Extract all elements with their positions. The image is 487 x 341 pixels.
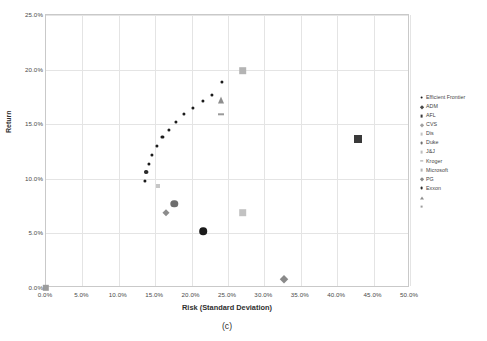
- data-point: [175, 120, 178, 123]
- legend-marker-icon: [417, 93, 426, 102]
- legend-item[interactable]: J&J: [417, 148, 485, 157]
- x-axis-tick-label: 35.0%: [291, 291, 309, 298]
- legend-marker-icon: [417, 139, 426, 148]
- data-point: [156, 184, 160, 188]
- chart-legend: Efficient FrontierADMAFLCVSDisDukeJ&JKro…: [417, 93, 485, 211]
- data-point: [151, 153, 154, 156]
- legend-label: CVS: [426, 122, 437, 127]
- legend-marker-icon: [417, 129, 426, 138]
- data-point: [239, 67, 247, 75]
- legend-item[interactable]: ADM: [417, 102, 485, 111]
- legend-marker-icon: [417, 193, 426, 202]
- y-axis-tick-label: 20.0%: [25, 65, 43, 72]
- grid-line-vertical: [155, 15, 156, 286]
- legend-item[interactable]: [417, 193, 485, 202]
- grid-line-vertical: [82, 15, 83, 286]
- grid-line-horizontal: [46, 70, 408, 71]
- legend-marker-icon: [417, 175, 426, 184]
- data-point: [147, 162, 150, 165]
- legend-item[interactable]: Efficient Frontier: [417, 93, 485, 102]
- legend-item[interactable]: Kroger: [417, 157, 485, 166]
- x-axis-tick-label: 20.0%: [182, 291, 200, 298]
- legend-item[interactable]: Microsoft: [417, 166, 485, 175]
- legend-label: Duke: [426, 140, 439, 145]
- x-axis-tick-label: 0.0%: [38, 291, 53, 298]
- x-axis-tick-label: 30.0%: [254, 291, 272, 298]
- grid-line-vertical: [301, 15, 302, 286]
- x-axis-title: Risk (Standard Deviation): [45, 303, 409, 312]
- data-point: [183, 113, 186, 116]
- x-axis-tick-label: 5.0%: [74, 291, 89, 298]
- x-axis-tick-label: 15.0%: [145, 291, 163, 298]
- x-axis-tick-label: 40.0%: [327, 291, 345, 298]
- legend-item[interactable]: CVS: [417, 120, 485, 129]
- data-point: [239, 209, 247, 217]
- legend-marker-icon: [417, 202, 426, 211]
- legend-item[interactable]: PG: [417, 175, 485, 184]
- legend-marker-icon: [417, 102, 426, 111]
- data-point: [161, 136, 164, 139]
- y-axis-tick-label: 25.0%: [25, 11, 43, 18]
- legend-marker-icon: [417, 148, 426, 157]
- data-point: [210, 93, 213, 96]
- legend-label: Kroger: [426, 159, 442, 164]
- legend-label: ADM: [426, 104, 438, 109]
- data-point: [167, 128, 170, 131]
- grid-line-horizontal: [46, 124, 408, 125]
- y-axis-tick-label: 5.0%: [28, 229, 43, 236]
- legend-marker-icon: [417, 120, 426, 129]
- legend-label: Efficient Frontier: [426, 95, 465, 100]
- grid-line-horizontal: [46, 233, 408, 234]
- data-point: [221, 80, 224, 83]
- data-point: [144, 170, 148, 174]
- x-axis-tick-label: 25.0%: [218, 291, 236, 298]
- legend-marker-icon: [417, 166, 426, 175]
- y-axis-title: Return: [5, 110, 12, 133]
- legend-item[interactable]: Duke: [417, 138, 485, 147]
- scatter-chart-figure: Return Risk (Standard Deviation) (c) 0.0…: [0, 0, 487, 341]
- data-point: [218, 97, 224, 104]
- grid-line-vertical: [119, 15, 120, 286]
- legend-item[interactable]: AFL: [417, 111, 485, 120]
- y-axis-tick-label: 10.0%: [25, 174, 43, 181]
- figure-caption: (c): [45, 321, 409, 331]
- data-point: [192, 106, 195, 109]
- legend-marker-icon: [417, 184, 426, 193]
- legend-label: AFL: [426, 113, 436, 118]
- x-axis-tick-label: 10.0%: [109, 291, 127, 298]
- y-axis-tick-label: 15.0%: [25, 120, 43, 127]
- grid-line-vertical: [264, 15, 265, 286]
- data-point: [280, 275, 288, 283]
- y-axis-tick-label: 0.0%: [28, 284, 43, 291]
- grid-line-vertical: [374, 15, 375, 286]
- grid-line-vertical: [337, 15, 338, 286]
- legend-label: Exxon: [426, 186, 441, 191]
- grid-line-vertical: [192, 15, 193, 286]
- grid-line-horizontal: [46, 15, 408, 16]
- data-point: [354, 135, 362, 143]
- grid-line-vertical: [410, 15, 411, 286]
- legend-item[interactable]: Exxon: [417, 184, 485, 193]
- data-point: [199, 227, 207, 235]
- legend-label: Microsoft: [426, 168, 448, 173]
- legend-label: PG: [426, 177, 434, 182]
- legend-item[interactable]: [417, 202, 485, 211]
- data-point: [155, 144, 158, 147]
- legend-label: J&J: [426, 149, 435, 154]
- legend-item[interactable]: Dis: [417, 129, 485, 138]
- grid-line-horizontal: [46, 179, 408, 180]
- legend-marker-icon: [417, 157, 426, 166]
- data-point: [201, 100, 204, 103]
- plot-area: [45, 14, 409, 287]
- data-point: [170, 200, 177, 207]
- data-point: [218, 114, 224, 115]
- legend-marker-icon: [417, 111, 426, 120]
- x-axis-tick-label: 50.0%: [400, 291, 418, 298]
- x-axis-tick-label: 45.0%: [364, 291, 382, 298]
- legend-label: Dis: [426, 131, 434, 136]
- grid-line-vertical: [228, 15, 229, 286]
- data-point: [143, 179, 146, 182]
- data-point: [162, 209, 170, 217]
